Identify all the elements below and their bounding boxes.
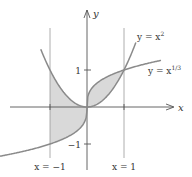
series-label: y = x1/3 <box>147 64 181 76</box>
series-label-text: y = x <box>147 66 171 76</box>
x-axis-label: x <box>178 102 184 113</box>
vertical-line-label: x = −1 <box>34 162 66 172</box>
series-label: y = x2 <box>136 30 164 42</box>
chart: x y 1−1 x = −1x = 1y = x2y = x1/3 <box>0 0 192 177</box>
y-tick-label: −1 <box>68 140 81 150</box>
series-label-exponent: 1/3 <box>171 64 181 71</box>
y-axis-label: y <box>92 8 99 19</box>
series-label-text: y = x <box>136 32 160 42</box>
y-tick-label: 1 <box>75 66 81 76</box>
vertical-line-label: x = 1 <box>112 162 136 172</box>
series-label-exponent: 2 <box>160 30 164 37</box>
